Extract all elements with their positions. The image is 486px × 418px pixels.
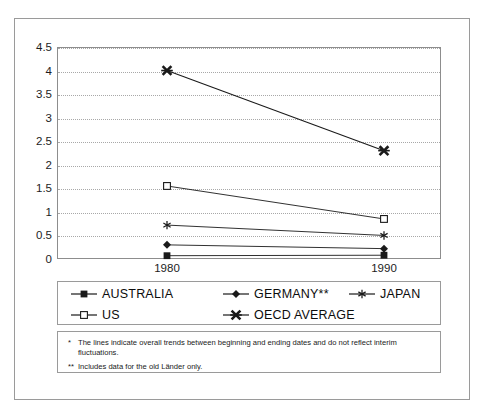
- x-axis-tick-labels: 19801990: [0, 262, 486, 278]
- x-tick-label: 1990: [371, 262, 397, 274]
- page-canvas: 4.543.532.521.510.50 19801990 AUSTRALIAG…: [0, 0, 486, 418]
- legend-label: US: [102, 308, 120, 322]
- series-marker-filled-diamond: [163, 241, 171, 249]
- series-australia: [164, 252, 388, 259]
- series-marker-filled-diamond: [232, 290, 240, 298]
- footnote-text: Includes data for the old Länder only.: [78, 362, 430, 372]
- legend-label: GERMANY**: [254, 287, 329, 301]
- footnote-text: The lines indicate overall trends betwee…: [78, 338, 430, 357]
- series-us: [164, 183, 388, 223]
- series-marker-filled-diamond: [380, 245, 388, 253]
- y-tick-label: 0.5: [36, 229, 52, 241]
- legend-label: JAPAN: [380, 287, 420, 301]
- legend-marker-filled-square-icon: [70, 287, 98, 301]
- legend-row: USOECD AVERAGE: [58, 304, 440, 326]
- series-marker-bold-x: [161, 66, 173, 75]
- series-japan: [163, 221, 387, 240]
- footnote-marker: *: [68, 338, 78, 357]
- legend-item-us[interactable]: US: [70, 304, 120, 326]
- legend-marker-filled-diamond-icon: [222, 287, 250, 301]
- series-oecd-average: [161, 66, 390, 155]
- series-marker-hollow-square: [381, 216, 388, 223]
- legend-label: AUSTRALIA: [102, 287, 173, 301]
- series-marker-filled-square: [164, 252, 171, 259]
- footnote: **Includes data for the old Länder only.: [68, 362, 430, 372]
- legend-row: AUSTRALIAGERMANY**JAPAN: [58, 283, 440, 305]
- series-marker-filled-square: [381, 252, 388, 259]
- y-tick-label: 3: [46, 112, 52, 124]
- series-marker-hollow-square: [164, 183, 171, 190]
- legend-item-japan[interactable]: JAPAN: [348, 283, 420, 305]
- legend-item-australia[interactable]: AUSTRALIA: [70, 283, 173, 305]
- footnote: *The lines indicate overall trends betwe…: [68, 338, 430, 357]
- legend-marker-bold-x-icon: [222, 308, 250, 322]
- y-tick-label: 4: [46, 65, 52, 77]
- series-marker-bold-x: [378, 146, 390, 155]
- chart-series-layer: [57, 47, 441, 259]
- series-marker-hollow-square: [81, 312, 88, 319]
- y-tick-label: 3.5: [36, 88, 52, 100]
- series-marker-filled-square: [81, 291, 88, 298]
- x-tick-label: 1980: [154, 262, 180, 274]
- legend-item-germany[interactable]: GERMANY**: [222, 283, 329, 305]
- chart-legend: AUSTRALIAGERMANY**JAPANUSOECD AVERAGE: [57, 281, 441, 325]
- y-tick-label: 4.5: [36, 41, 52, 53]
- legend-marker-hollow-square-icon: [70, 308, 98, 322]
- y-tick-label: 2.5: [36, 135, 52, 147]
- legend-marker-asterisk-icon: [348, 287, 376, 301]
- legend-item-oecd-average[interactable]: OECD AVERAGE: [222, 304, 355, 326]
- y-tick-label: 2: [46, 159, 52, 171]
- footnote-marker: **: [68, 362, 78, 372]
- series-germany: [163, 241, 388, 253]
- series-marker-bold-x: [230, 311, 242, 320]
- y-tick-label: 1.5: [36, 182, 52, 194]
- y-tick-label: 1: [46, 206, 52, 218]
- y-axis-tick-labels: 4.543.532.521.510.50: [14, 40, 52, 266]
- chart-footnotes: *The lines indicate overall trends betwe…: [57, 331, 441, 373]
- legend-label: OECD AVERAGE: [254, 308, 355, 322]
